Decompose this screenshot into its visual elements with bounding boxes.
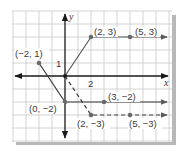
y-axis-label: y	[68, 11, 74, 22]
point-neg2-1	[37, 61, 42, 66]
label-2-3: (2, 3)	[94, 26, 116, 37]
x-tick-label: 2	[88, 78, 93, 89]
y-tick-label: 1	[56, 58, 61, 69]
point-2-3	[89, 35, 94, 40]
label-5-neg3: (5, −3)	[129, 118, 157, 129]
label-0-neg2: (0, −2)	[29, 103, 57, 114]
x-axis-label: x	[163, 77, 169, 88]
label-3-neg2: (3, −2)	[108, 91, 136, 102]
point-5-3	[128, 35, 133, 40]
point-5-neg3	[128, 113, 133, 118]
label-5-3: (5, 3)	[135, 26, 157, 37]
point-2-neg3	[89, 113, 94, 118]
point-3-neg2	[102, 100, 107, 105]
coordinate-graph: (−2, 1) (2, 3) (5, 3) (0, −2) (3, −2) (2…	[0, 0, 184, 147]
origin-point	[63, 74, 67, 78]
label-2-neg3: (2, −3)	[77, 118, 105, 129]
label-neg2-1: (−2, 1)	[15, 48, 43, 59]
